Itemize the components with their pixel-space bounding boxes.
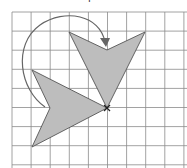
rotation-diagram (0, 0, 187, 168)
arrowhead-icon (100, 38, 110, 47)
